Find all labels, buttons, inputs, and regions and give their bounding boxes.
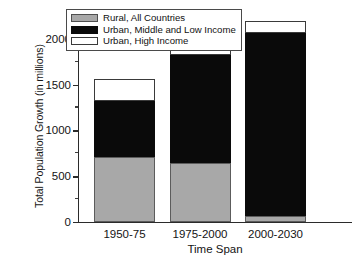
x-axis-title: Time Span [78, 243, 352, 255]
legend-label: Urban, High Income [103, 36, 188, 46]
bar-segment-urban-ml[interactable] [94, 101, 155, 157]
bar-segment-urban-hi[interactable] [94, 79, 155, 101]
bar-segment-urban-hi[interactable] [245, 21, 306, 34]
y-tick-label: 0 [65, 216, 71, 228]
chart-legend: Rural, All CountriesUrban, Middle and Lo… [66, 9, 242, 51]
legend-label: Urban, Middle and Low Income [103, 25, 236, 35]
legend-item[interactable]: Rural, All Countries [71, 13, 236, 24]
y-tick-mark [73, 176, 78, 177]
population-growth-chart: Total Population Growth (in millions) 05… [0, 0, 363, 271]
x-tick-label: 2000-2030 [248, 228, 303, 240]
bar-segment-urban-ml[interactable] [245, 33, 306, 215]
bar-segment-rural[interactable] [245, 216, 306, 222]
legend-swatch-urban-ml [71, 26, 98, 34]
y-tick-mark [73, 85, 78, 86]
y-minor-tick-mark [75, 198, 78, 199]
bar-segment-rural[interactable] [170, 163, 231, 222]
x-tick-label: 1950-75 [103, 228, 145, 240]
legend-label: Rural, All Countries [103, 13, 185, 23]
bar-segment-urban-ml[interactable] [170, 55, 231, 163]
bar-stack[interactable] [245, 16, 306, 222]
y-tick-label: 1000 [45, 124, 71, 136]
y-minor-tick-mark [75, 106, 78, 107]
y-minor-tick-mark [75, 152, 78, 153]
legend-item[interactable]: Urban, Middle and Low Income [71, 24, 236, 35]
x-axis-line [78, 222, 352, 223]
y-tick-mark [73, 222, 78, 223]
legend-item[interactable]: Urban, High Income [71, 36, 236, 47]
legend-swatch-urban-hi [71, 37, 98, 45]
x-tick-label: 1975-2000 [173, 228, 228, 240]
legend-swatch-rural [71, 14, 98, 22]
y-tick-label: 1500 [45, 79, 71, 91]
bar-segment-rural[interactable] [94, 157, 155, 222]
y-minor-tick-mark [75, 61, 78, 62]
y-axis-title: Total Population Growth (in millions) [33, 26, 45, 226]
y-tick-mark [73, 130, 78, 131]
y-tick-label: 500 [52, 170, 71, 182]
